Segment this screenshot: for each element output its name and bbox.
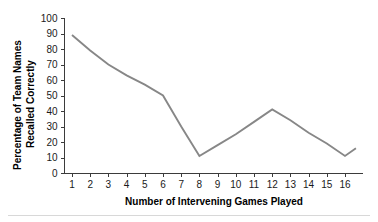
x-tick-label: 12 [267, 179, 279, 190]
y-tick-label: 50 [46, 90, 58, 101]
y-tick-label: 20 [46, 137, 58, 148]
y-axis-title-line-2: Recalled Correctly [25, 60, 36, 148]
y-tick-label: 0 [52, 168, 58, 179]
x-tick-label: 11 [249, 179, 260, 190]
x-tick-label: 16 [339, 179, 351, 190]
x-tick-label: 9 [215, 179, 221, 190]
x-tick-label: 5 [142, 179, 148, 190]
y-tick-label: 60 [46, 75, 58, 86]
x-tick-label: 14 [303, 179, 315, 190]
x-tick-label: 6 [160, 179, 166, 190]
x-tick-label: 4 [124, 179, 130, 190]
y-tick-label: 100 [41, 13, 58, 24]
y-tick-label: 80 [46, 44, 58, 55]
y-tick-label: 30 [46, 121, 58, 132]
x-axis-title: Number of Intervening Games Played [125, 196, 303, 207]
x-tick-label: 7 [178, 179, 184, 190]
x-tick-label: 2 [87, 179, 93, 190]
y-tick-label: 90 [46, 28, 58, 39]
y-tick-label: 10 [46, 152, 58, 163]
x-tick-label: 1 [69, 179, 75, 190]
y-tick-label: 40 [46, 106, 58, 117]
x-tick-label: 13 [285, 179, 297, 190]
chart-figure: Percentage of Team Names Recalled Correc… [0, 0, 378, 222]
x-tick-label: 8 [197, 179, 203, 190]
x-tick-label: 10 [230, 179, 242, 190]
y-axis-title-line-1: Percentage of Team Names [12, 40, 23, 170]
line-chart: Percentage of Team Names Recalled Correc… [0, 0, 378, 222]
y-tick-label: 70 [46, 59, 58, 70]
x-tick-label: 15 [321, 179, 333, 190]
x-tick-label: 3 [106, 179, 112, 190]
